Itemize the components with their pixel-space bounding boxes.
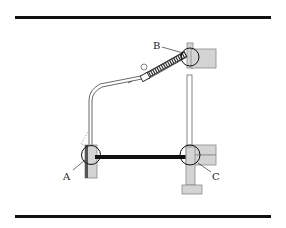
dashed-guide	[81, 132, 88, 146]
left-block	[85, 145, 97, 178]
mechanism-diagram: B A C	[0, 0, 286, 228]
leader-b	[162, 47, 183, 53]
right-base-block	[182, 145, 216, 194]
label-b: B	[153, 40, 160, 51]
link-bar	[95, 155, 187, 159]
top-rule	[15, 16, 271, 19]
ring-icon	[141, 64, 147, 70]
label-c: C	[212, 171, 220, 182]
label-a: A	[62, 171, 71, 182]
bottom-rule	[15, 215, 271, 218]
leader-a	[73, 160, 85, 170]
curved-arm	[89, 76, 142, 145]
